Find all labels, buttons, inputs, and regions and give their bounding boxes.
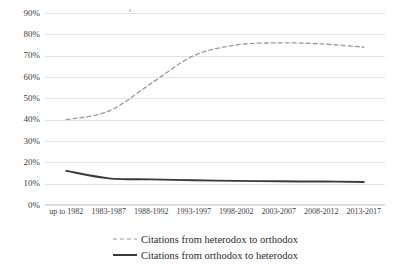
x-axis-tick-label: 2008-2012	[304, 207, 339, 217]
gridline	[45, 205, 385, 206]
line-chart: 0%10%20%30%40%50%60%70%80%90% up to 1982…	[0, 0, 402, 266]
y-axis-tick-label: 0%	[28, 201, 40, 210]
x-axis-tick-label: 1993-1997	[176, 207, 211, 217]
chart-legend: Citations from heterodox to orthodox Cit…	[112, 231, 362, 263]
x-axis-tick-label: 1998-2002	[219, 207, 254, 217]
y-axis-tick-label: 50%	[24, 94, 41, 103]
x-axis-tick-label: 1983-1987	[91, 207, 126, 217]
y-axis-tick-label: 90%	[24, 9, 41, 18]
x-axis-tick-label: 2013-2017	[346, 207, 381, 217]
y-axis-tick-label: 70%	[24, 51, 41, 60]
legend-item-orthodox-to-heterodox: Citations from orthodox to heterodox	[112, 247, 362, 263]
x-axis-tick-label: 2003-2007	[261, 207, 296, 217]
y-axis-tick-label: 80%	[24, 30, 41, 39]
legend-label-heterodox-to-orthodox: Citations from heterodox to orthodox	[141, 234, 298, 245]
plot-area	[45, 13, 385, 205]
dashed-line-key-icon	[112, 234, 138, 244]
y-axis-tick-label: 30%	[24, 137, 41, 146]
series-lines	[45, 13, 385, 205]
legend-label-orthodox-to-heterodox: Citations from orthodox to heterodox	[141, 250, 298, 261]
y-axis-tick-label: 10%	[24, 179, 41, 188]
legend-item-heterodox-to-orthodox: Citations from heterodox to orthodox	[112, 231, 362, 247]
y-axis-tick-label: 40%	[24, 115, 41, 124]
x-axis-tick-label: 1988-1992	[134, 207, 169, 217]
y-axis-tick-label: 60%	[24, 73, 41, 82]
x-axis-tick-label: up to 1982	[49, 207, 83, 217]
series-line-heterodox-to-orthodox	[66, 43, 364, 120]
x-axis-labels: up to 19821983-19871988-19921993-1997199…	[45, 207, 385, 221]
series-line-orthodox-to-heterodox	[66, 171, 364, 182]
solid-line-key-icon	[112, 250, 138, 260]
y-axis-labels: 0%10%20%30%40%50%60%70%80%90%	[0, 0, 45, 218]
y-axis-tick-label: 20%	[24, 158, 41, 167]
stray-speck-artifact	[129, 9, 131, 12]
